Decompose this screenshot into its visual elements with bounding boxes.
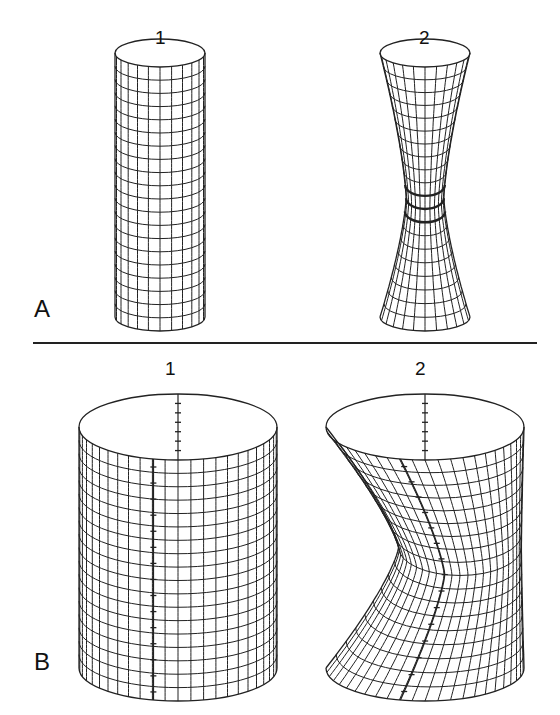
panel-b-figure-2-number: 2: [415, 358, 426, 380]
panel-a-straight-cylinder: [115, 39, 205, 331]
panel-a-hourglass-cylinder: [380, 39, 470, 331]
panel-b-twisted-cylinder: [326, 394, 524, 701]
panel-a-label: A: [34, 295, 50, 323]
panel-a-figure-2-number: 2: [419, 27, 430, 49]
panel-b-straight-cylinder: [79, 394, 277, 701]
panel-a-figure-1-number: 1: [155, 27, 166, 49]
panel-b-label: B: [34, 648, 50, 676]
panel-b-figure-1-number: 1: [165, 358, 176, 380]
cylinder-deformation-figure: [0, 0, 560, 715]
